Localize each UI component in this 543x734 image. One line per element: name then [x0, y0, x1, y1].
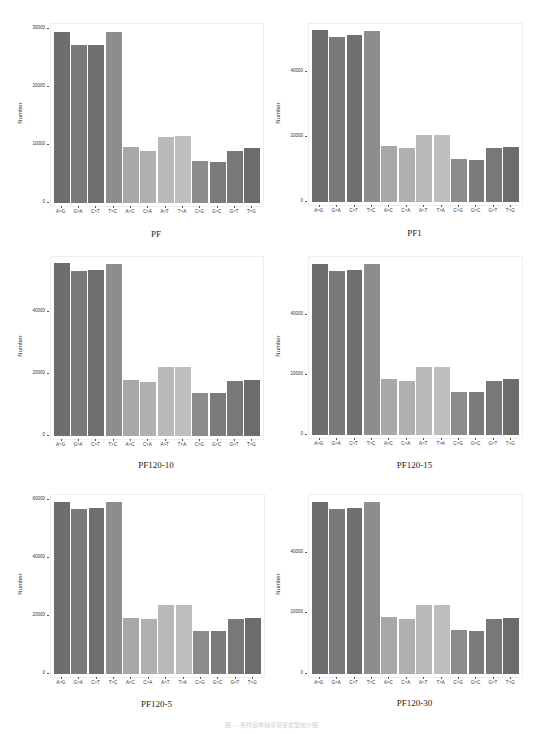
x-tick-mark: [423, 438, 424, 440]
y-tick-mark: [47, 28, 49, 29]
x-tick-mark: [148, 677, 149, 679]
x-tick-mark: [234, 206, 235, 208]
x-tick-mark: [182, 439, 183, 441]
x-tick-mark: [165, 206, 166, 208]
x-tick-mark: [475, 438, 476, 440]
x-tick-mark: [336, 438, 337, 440]
x-tick-mark: [406, 677, 407, 679]
x-tick-mark: [388, 677, 389, 679]
x-tick-mark: [251, 206, 252, 208]
x-tick-mark: [147, 439, 148, 441]
x-tick-mark: [441, 438, 442, 440]
y-tick-label: 0: [15, 432, 45, 437]
x-tick-mark: [510, 205, 511, 207]
y-tick-mark: [47, 311, 49, 312]
y-tick-mark: [47, 202, 49, 203]
plot-area: [308, 23, 523, 206]
bar-t-to-g: [245, 618, 261, 674]
bar-t-to-c: [106, 264, 122, 436]
bar-t-to-g: [503, 147, 519, 202]
x-tick-mark: [130, 206, 131, 208]
y-tick-label: 0: [273, 670, 303, 675]
bar-g-to-t: [227, 381, 243, 436]
x-tick-mark: [336, 205, 337, 207]
chart-title: PF120-15: [279, 460, 543, 470]
x-tick-mark: [61, 206, 62, 208]
x-tick-mark: [423, 205, 424, 207]
x-tick-mark: [423, 677, 424, 679]
y-tick-mark: [47, 615, 49, 616]
x-tick-mark: [475, 205, 476, 207]
y-tick-mark: [305, 434, 307, 435]
x-tick-mark: [510, 438, 511, 440]
y-tick-mark: [47, 673, 49, 674]
y-tick-label: 40000: [273, 311, 303, 316]
x-tick-mark: [96, 677, 97, 679]
x-tick-mark: [251, 439, 252, 441]
bar-a-to-t: [158, 605, 174, 674]
bar-c-to-t: [347, 35, 363, 202]
bar-t-to-a: [434, 135, 450, 202]
bar-t-to-c: [106, 32, 122, 203]
bar-g-to-a: [71, 509, 87, 674]
bar-t-to-c: [364, 31, 380, 202]
bar-c-to-g: [451, 630, 467, 674]
figure-caption: 图 — 各样品单碱基突变类型统计图: [0, 720, 543, 729]
bar-a-to-c: [123, 380, 139, 436]
bar-g-to-a: [71, 271, 87, 436]
bar-a-to-g: [54, 502, 70, 674]
bar-a-to-t: [416, 135, 432, 202]
y-tick-label: 40000: [15, 308, 45, 313]
y-tick-label: 10000: [15, 141, 45, 146]
plot-area: [50, 23, 264, 207]
bar-g-to-t: [486, 619, 502, 674]
bar-t-to-a: [176, 605, 192, 674]
x-tick-mark: [130, 677, 131, 679]
x-tick-mark: [217, 677, 218, 679]
bar-c-to-a: [140, 151, 156, 203]
x-tick-mark: [234, 439, 235, 441]
x-tick-mark: [165, 439, 166, 441]
bar-a-to-g: [54, 263, 70, 436]
y-axis-label: Number: [275, 564, 281, 604]
bar-a-to-c: [381, 146, 397, 202]
chart-title: PF120-10: [20, 460, 292, 470]
x-tick-mark: [61, 439, 62, 441]
x-tick-mark: [147, 206, 148, 208]
plot-area: [308, 256, 523, 439]
x-tick-mark: [354, 438, 355, 440]
y-tick-label: 0: [15, 670, 45, 675]
x-tick-mark: [475, 677, 476, 679]
x-tick-mark: [354, 677, 355, 679]
x-tick-mark: [371, 677, 372, 679]
x-tick-mark: [78, 677, 79, 679]
x-tick-mark: [235, 677, 236, 679]
x-tick-mark: [458, 677, 459, 679]
bar-a-to-c: [381, 379, 397, 435]
chart-title: PF120-30: [279, 698, 543, 708]
bar-c-to-g: [192, 161, 208, 203]
y-tick-label: 0: [15, 199, 45, 204]
x-tick-mark: [113, 206, 114, 208]
bar-c-to-a: [141, 619, 157, 674]
x-tick-mark: [95, 206, 96, 208]
bar-c-to-g: [193, 631, 209, 674]
y-tick-mark: [305, 673, 307, 674]
bar-c-to-t: [347, 508, 363, 674]
x-tick-mark: [319, 677, 320, 679]
plot-area: [50, 494, 265, 678]
y-tick-mark: [47, 499, 49, 500]
x-tick-mark: [319, 438, 320, 440]
x-tick-mark: [458, 438, 459, 440]
y-tick-label: 20000: [15, 83, 45, 88]
y-tick-label: 30000: [15, 25, 45, 30]
x-tick-mark: [61, 677, 62, 679]
y-tick-label: 20000: [273, 371, 303, 376]
bar-a-to-c: [381, 617, 397, 674]
x-tick-label: T>G: [241, 442, 261, 447]
x-tick-mark: [406, 438, 407, 440]
x-tick-label: T>G: [500, 680, 520, 685]
bar-t-to-g: [244, 148, 260, 203]
y-tick-mark: [47, 435, 49, 436]
bar-a-to-g: [54, 32, 70, 203]
